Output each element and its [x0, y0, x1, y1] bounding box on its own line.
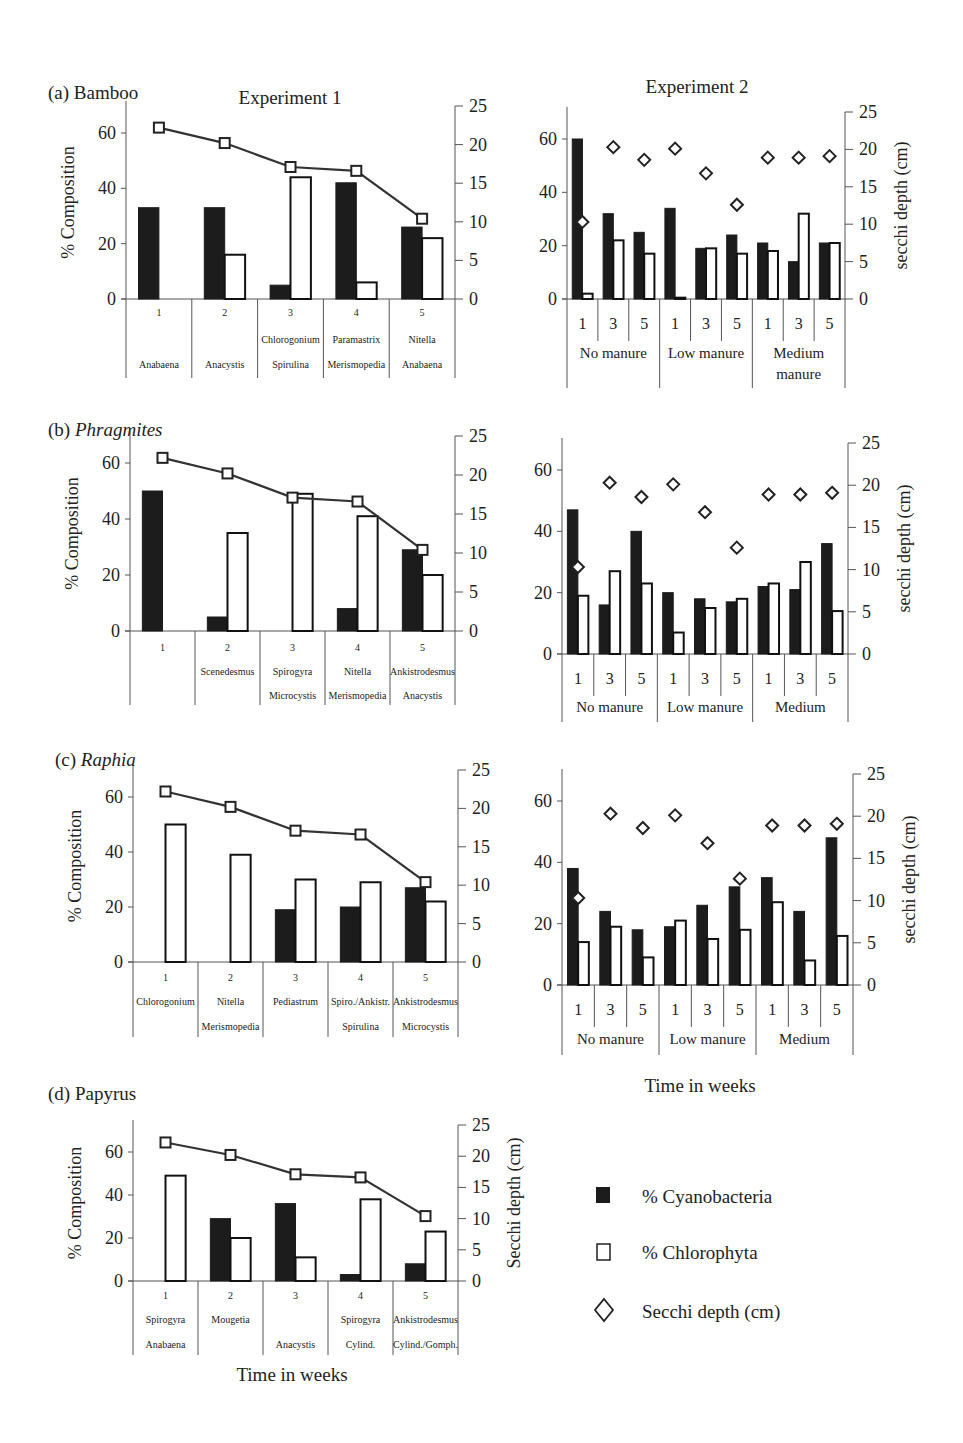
y-tick-left: 20 [534, 914, 552, 934]
genus-label: Ankistrodesmus [390, 666, 455, 677]
y-tick-left: 20 [102, 565, 120, 585]
experiment-1-title: Experiment 1 [239, 87, 342, 108]
bar-cyanobacteria [142, 491, 162, 631]
y-tick-left: 20 [98, 234, 116, 254]
y-label-right: secchi depth (cm) [894, 485, 915, 613]
bar-chlorophyta [582, 294, 592, 299]
y-tick-right: 10 [469, 212, 487, 232]
bar-chlorophyta [361, 882, 381, 962]
bar-cyanobacteria [758, 587, 768, 654]
y-tick-left: 0 [111, 621, 120, 641]
y-tick-right: 5 [859, 252, 868, 272]
panel-title: (c) Raphia [55, 749, 136, 771]
bar-chlorophyta [578, 596, 588, 654]
secchi-marker [288, 493, 298, 503]
bar-cyanobacteria [788, 262, 798, 299]
y-tick-right: 10 [469, 543, 487, 563]
genus-label: Nitella [408, 334, 436, 345]
y-tick-left: 20 [534, 583, 552, 603]
bar-cyanobacteria [632, 930, 643, 985]
bar-chlorophyta [832, 611, 842, 654]
secchi-diamond [669, 809, 681, 821]
bar-chlorophyta [643, 957, 654, 985]
y-tick-left: 40 [105, 1185, 123, 1205]
genus-label: Cylind. [346, 1339, 376, 1350]
x-tick-week: 5 [423, 1290, 428, 1301]
y-tick-right: 0 [472, 1271, 481, 1291]
bar-chlorophyta [293, 494, 313, 631]
y-tick-right: 0 [862, 644, 871, 664]
bar-chlorophyta [361, 1199, 381, 1281]
y-tick-right: 20 [859, 139, 877, 159]
x-tick-week: 1 [574, 1001, 582, 1018]
y-tick-right: 25 [859, 102, 877, 122]
secchi-marker [226, 1150, 236, 1160]
bar-chlorophyta [426, 1232, 446, 1281]
bar-cyanobacteria [275, 910, 295, 962]
bar-cyanobacteria [567, 868, 578, 985]
genus-label: Microcystis [402, 1021, 449, 1032]
y-tick-left: 0 [114, 1271, 123, 1291]
x-tick-week: 3 [796, 670, 804, 687]
genus-label: Anabaena [146, 1339, 187, 1350]
secchi-marker [220, 138, 230, 148]
bar-chlorophyta [740, 930, 751, 985]
y-tick-right: 5 [472, 914, 481, 934]
bar-chlorophyta [769, 583, 779, 654]
bar-cyanobacteria [599, 605, 609, 654]
x-tick-week: 4 [358, 1290, 363, 1301]
secchi-diamond [734, 873, 746, 885]
legend-label: % Cyanobacteria [642, 1186, 773, 1207]
secchi-marker [421, 877, 431, 887]
bar-chlorophyta [675, 298, 685, 299]
bar-cyanobacteria [790, 590, 800, 654]
x-tick-week: 2 [228, 1290, 233, 1301]
x-tick-week: 2 [228, 972, 233, 983]
x-tick-week: 2 [225, 642, 230, 653]
panel-title: (d) Papyrus [48, 1083, 136, 1105]
y-label-left: % Composition [65, 810, 85, 923]
y-tick-right: 10 [472, 1209, 490, 1229]
secchi-marker [154, 123, 164, 133]
secchi-diamond [635, 491, 647, 503]
secchi-diamond [731, 199, 743, 211]
secchi-diamond [793, 152, 805, 164]
bar-chlorophyta [358, 516, 378, 631]
bar-cyanobacteria [631, 531, 641, 654]
x-tick-week: 5 [423, 972, 428, 983]
bar-chlorophyta [805, 960, 816, 985]
legend-swatch-secchi [595, 1299, 613, 1321]
bar-cyanobacteria [634, 232, 644, 299]
secchi-marker [291, 1169, 301, 1179]
bar-chlorophyta [166, 825, 186, 963]
genus-label: Cylind./Gomph. [393, 1339, 458, 1350]
secchi-diamond [766, 819, 778, 831]
secchi-marker [223, 468, 233, 478]
bar-cyanobacteria [204, 208, 224, 299]
bar-chlorophyta [706, 248, 716, 299]
treatment-label: Low manure [669, 1031, 746, 1047]
bar-cyanobacteria [729, 887, 740, 985]
x-tick-week: 4 [355, 642, 360, 653]
x-tick-week: 3 [609, 315, 617, 332]
y-tick-left: 40 [534, 521, 552, 541]
genus-label: Nitella [217, 996, 245, 1007]
secchi-marker [161, 1137, 171, 1147]
genus-label: Mougetia [211, 1314, 250, 1325]
genus-label: Scenedesmus [201, 666, 255, 677]
y-label-left: % Composition [58, 146, 78, 259]
secchi-marker [356, 830, 366, 840]
y-tick-right: 15 [859, 177, 877, 197]
x-tick-week: 5 [420, 307, 425, 318]
x-tick-week: 5 [733, 315, 741, 332]
legend: % Cyanobacteria% ChlorophytaSecchi depth… [595, 1186, 780, 1323]
bar-cyanobacteria [402, 227, 422, 299]
x-tick-week: 2 [222, 307, 227, 318]
y-tick-left: 60 [98, 123, 116, 143]
x-tick-week: 1 [578, 315, 586, 332]
x-tick-week: 3 [701, 670, 709, 687]
legend-swatch-chlorophyta [597, 1244, 610, 1260]
secchi-diamond [667, 478, 679, 490]
secchi-marker [161, 787, 171, 797]
bar-cyanobacteria [275, 1204, 295, 1281]
